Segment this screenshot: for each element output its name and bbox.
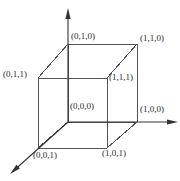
vertex-label-v-010: (0,1,0) xyxy=(71,31,95,41)
vertex-label-v-000: (0,0,0) xyxy=(70,101,94,111)
y-axis-arrowhead-icon xyxy=(65,8,70,19)
vertex-label-v-101: (1,0,1) xyxy=(102,148,126,158)
vertex-label-v-111: (1,1,1) xyxy=(109,72,133,82)
edge-depth-top-left xyxy=(38,44,68,78)
vertex-label-v-011: (0,1,1) xyxy=(3,69,27,79)
unit-cube-figure: (0,1,0)(1,1,0)(0,1,1)(1,1,1)(0,0,0)(1,0,… xyxy=(0,0,180,181)
vertex-label-v-110: (1,1,0) xyxy=(140,33,164,43)
x-axis-arrowhead-icon xyxy=(167,119,178,124)
vertex-label-v-100: (1,0,0) xyxy=(140,104,164,114)
z-axis-shaft xyxy=(17,122,68,168)
cube-diagram-canvas xyxy=(0,0,180,181)
vertex-label-v-001: (0,0,1) xyxy=(33,150,57,160)
edge-depth-bottom-right xyxy=(107,122,137,148)
cube-edges xyxy=(38,44,137,148)
